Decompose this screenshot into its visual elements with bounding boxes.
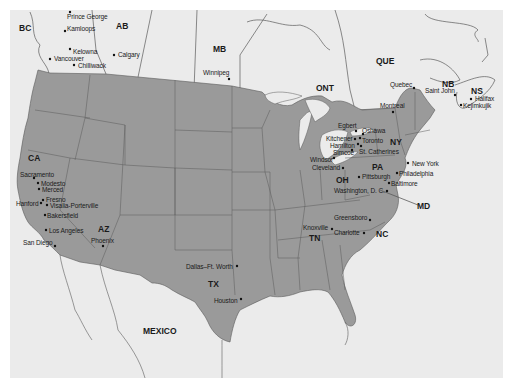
map-canvas: BC AB MB ONT QUE NB NS CA AZ TX NY PA OH… <box>0 0 510 384</box>
city-label-san-diego: San Diego <box>23 240 52 247</box>
city-label-washington-dc: Washington, D. C. <box>334 188 385 195</box>
city-label-windsor: Windsor <box>310 157 333 164</box>
city-label-bakersfield: Bakersfield <box>47 213 78 220</box>
city-label-houston: Houston <box>214 298 238 305</box>
city-label-toronto: Toronto <box>362 138 383 145</box>
city-label-merced: Merced <box>42 187 63 194</box>
region-label-oh: OH <box>336 176 349 185</box>
region-label-bc: BC <box>19 24 31 33</box>
city-label-pittsburgh: Pittsburgh <box>362 174 390 181</box>
city-label-chilliwack: Chilliwack <box>78 63 106 70</box>
city-label-philadelphia: Philadelphia <box>399 171 433 178</box>
city-label-montreal: Montreal <box>380 103 405 110</box>
city-label-charlotte: Charlotte <box>334 230 359 237</box>
city-label-new-york: New York <box>412 161 439 168</box>
city-label-baltimore: Baltimore <box>391 181 418 188</box>
region-label-pa: PA <box>372 163 383 172</box>
city-label-kamloops: Kamloops <box>67 26 95 33</box>
city-label-winnipeg: Winnipeg <box>203 70 229 77</box>
city-label-prince-george: Prince George <box>67 14 108 21</box>
city-label-hanford: Hanford <box>16 201 38 208</box>
city-label-oshawa: Oshawa <box>362 128 385 135</box>
region-label-tx: TX <box>208 280 219 289</box>
city-label-visalia-porterville: Visalia-Porterville <box>50 203 98 210</box>
city-label-cleveland: Cleveland <box>312 165 340 172</box>
city-label-greensboro: Greensboro <box>334 215 367 222</box>
city-label-los-angeles: Los Angeles <box>49 228 83 235</box>
city-label-quebec: Quebec <box>390 82 412 89</box>
city-label-saint-john: Saint John <box>425 88 455 95</box>
region-label-mb: MB <box>213 45 226 54</box>
region-label-ab: AB <box>116 22 128 31</box>
city-label-st-catherines: St. Catherines <box>359 149 399 156</box>
region-label-tn: TN <box>309 234 320 243</box>
city-label-knoxville: Knoxville <box>303 225 328 232</box>
region-label-az: AZ <box>98 225 109 234</box>
region-label-mexico: MEXICO <box>143 327 177 336</box>
city-label-sacramento: Sacramento <box>20 172 54 179</box>
city-label-phoenix: Phoenix <box>91 238 114 245</box>
city-label-egbert: Egbert <box>338 123 357 130</box>
region-label-ny: NY <box>390 138 402 147</box>
region-label-ont: ONT <box>316 84 334 93</box>
region-label-ca: CA <box>28 154 40 163</box>
city-label-kejimkujik: Kejimkujik <box>463 103 491 110</box>
region-label-nc: NC <box>376 230 388 239</box>
region-label-md: MD <box>417 202 430 211</box>
city-label-calgary: Calgary <box>118 52 140 59</box>
city-label-simcoe: Simcoe <box>333 150 354 157</box>
region-label-que: QUE <box>376 57 394 66</box>
city-label-dallas-ft-worth: Dallas–Ft. Worth <box>186 264 233 271</box>
